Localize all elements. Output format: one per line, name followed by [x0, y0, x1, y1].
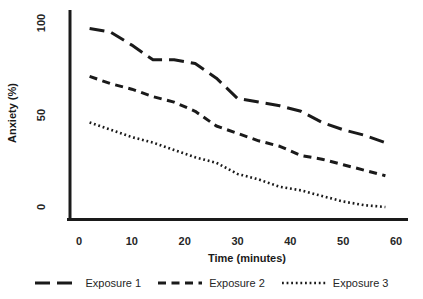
long-dash-line-icon: [35, 280, 79, 286]
legend-label: Exposure 2: [209, 277, 265, 289]
dotted-line-icon: [282, 280, 326, 286]
x-tick-label: 30: [231, 235, 243, 247]
y-tick-label: 100: [35, 14, 47, 32]
legend-item-exposure-2: Exposure 2: [158, 277, 265, 289]
anxiety-exposure-chart: 0102030405060 050100 Time (minutes) Anxi…: [0, 0, 423, 299]
series-lines: [90, 29, 386, 208]
legend-label: Exposure 3: [333, 277, 389, 289]
y-tick-label: 50: [35, 109, 47, 121]
legend-item-exposure-3: Exposure 3: [282, 277, 389, 289]
x-axis-title: Time (minutes): [208, 252, 286, 264]
x-tick-label: 50: [337, 235, 349, 247]
dash-line-icon: [158, 280, 202, 286]
y-axis-title: Anxiety (%): [6, 83, 18, 143]
legend-item-exposure-1: Exposure 1: [35, 277, 142, 289]
series-line-2: [90, 76, 386, 175]
series-line-3: [90, 122, 386, 207]
series-line-1: [90, 29, 386, 143]
x-tick-label: 10: [126, 235, 138, 247]
y-tick-label: 0: [35, 204, 47, 210]
y-tick-labels: 050100: [35, 14, 47, 210]
x-tick-labels: 0102030405060: [76, 235, 402, 247]
x-tick-label: 60: [390, 235, 402, 247]
chart-legend: Exposure 1 Exposure 2 Exposure 3: [0, 270, 423, 296]
chart-canvas: 0102030405060 050100 Time (minutes) Anxi…: [0, 0, 423, 299]
x-tick-label: 20: [179, 235, 191, 247]
legend-label: Exposure 1: [86, 277, 142, 289]
x-tick-label: 40: [284, 235, 296, 247]
x-tick-label: 0: [76, 235, 82, 247]
